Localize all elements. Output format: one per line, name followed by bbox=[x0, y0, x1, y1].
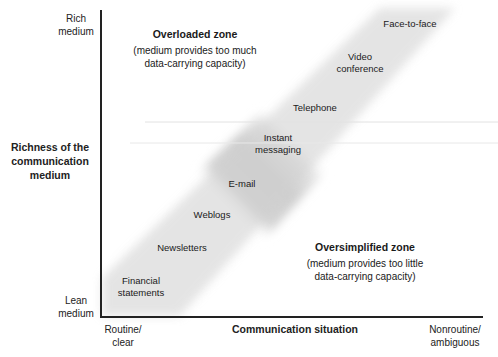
oversimplified-zone: Oversimplified zone (medium provides too… bbox=[290, 241, 440, 283]
overloaded-zone-desc-line1: (medium provides too much bbox=[120, 44, 270, 57]
medium-financial-statements: Financial statements bbox=[113, 275, 169, 299]
medium-instant-messaging-line2: messaging bbox=[248, 144, 308, 156]
y-axis-title-line1: Richness of the bbox=[4, 140, 96, 154]
x-axis-right-label: Nonroutine/ ambiguous bbox=[420, 323, 490, 349]
medium-video-conference-line2: conference bbox=[325, 63, 395, 75]
x-axis-right-label-line2: ambiguous bbox=[420, 336, 490, 349]
y-axis-top-label: Rich medium bbox=[56, 12, 96, 38]
overloaded-zone-desc-line2: data-carrying capacity) bbox=[120, 57, 270, 70]
medium-newsletters-label: Newsletters bbox=[152, 242, 212, 254]
y-axis-line bbox=[100, 10, 102, 318]
y-axis-title: Richness of the communication medium bbox=[4, 140, 96, 182]
y-axis-bottom-label-line1: Lean bbox=[56, 294, 96, 307]
medium-instant-messaging: Instant messaging bbox=[248, 132, 308, 156]
medium-instant-messaging-line1: Instant bbox=[248, 132, 308, 144]
x-axis-left-label: Routine/ clear bbox=[100, 323, 146, 349]
medium-telephone: Telephone bbox=[285, 102, 345, 114]
x-axis-title: Communication situation bbox=[220, 323, 370, 336]
x-axis-left-label-line2: clear bbox=[100, 336, 146, 349]
medium-video-conference: Video conference bbox=[325, 51, 395, 75]
medium-newsletters: Newsletters bbox=[152, 242, 212, 254]
medium-weblogs: Weblogs bbox=[189, 209, 235, 221]
medium-video-conference-line1: Video bbox=[325, 51, 395, 63]
y-axis-bottom-label: Lean medium bbox=[56, 294, 96, 320]
medium-email-label: E-mail bbox=[222, 178, 262, 190]
overloaded-zone: Overloaded zone (medium provides too muc… bbox=[120, 28, 270, 70]
medium-face-to-face-label: Face-to-face bbox=[375, 18, 445, 30]
oversimplified-zone-title: Oversimplified zone bbox=[290, 241, 440, 254]
medium-telephone-label: Telephone bbox=[285, 102, 345, 114]
medium-email: E-mail bbox=[222, 178, 262, 190]
medium-face-to-face: Face-to-face bbox=[375, 18, 445, 30]
medium-financial-statements-line2: statements bbox=[113, 287, 169, 299]
x-axis-left-label-line1: Routine/ bbox=[100, 323, 146, 336]
y-axis-top-label-line2: medium bbox=[56, 25, 96, 38]
y-axis-title-line2: communication bbox=[4, 154, 96, 168]
x-axis-line bbox=[100, 316, 483, 318]
y-axis-bottom-label-line2: medium bbox=[56, 307, 96, 320]
oversimplified-zone-desc-line1: (medium provides too little bbox=[290, 257, 440, 270]
y-axis-title-line3: medium bbox=[4, 168, 96, 182]
medium-weblogs-label: Weblogs bbox=[189, 209, 235, 221]
medium-financial-statements-line1: Financial bbox=[113, 275, 169, 287]
oversimplified-zone-desc-line2: data-carrying capacity) bbox=[290, 270, 440, 283]
overloaded-zone-title: Overloaded zone bbox=[120, 28, 270, 41]
y-axis-top-label-line1: Rich bbox=[56, 12, 96, 25]
x-axis-right-label-line1: Nonroutine/ bbox=[420, 323, 490, 336]
